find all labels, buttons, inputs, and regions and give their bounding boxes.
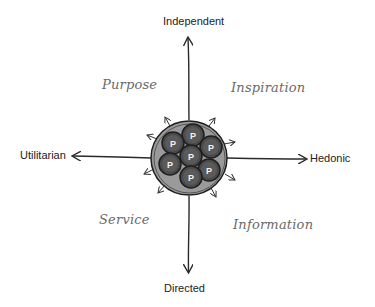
axis-label-bottom: Directed (164, 282, 205, 294)
small-arrow-icon (147, 135, 157, 139)
quadrant-label-bottom-left: Service (99, 212, 150, 227)
quadrant-label-top-left: Purpose (102, 77, 157, 92)
small-arrow-icon (224, 142, 235, 144)
quadrant-label-top-right: Inspiration (231, 80, 305, 95)
small-arrow-icon (225, 174, 235, 180)
p-node: P (180, 145, 202, 167)
axis-label-left: Utilitarian (20, 149, 66, 161)
arrow-up-icon (188, 38, 189, 120)
p-node: P (159, 153, 181, 175)
arrow-left-icon (73, 156, 151, 158)
center-cluster: P P P P P (151, 121, 227, 195)
axis-label-right: Hedonic (310, 152, 350, 164)
axis-label-top: Independent (163, 15, 224, 27)
svg-text:P: P (167, 160, 173, 170)
svg-text:P: P (190, 131, 196, 141)
svg-text:P: P (188, 173, 194, 183)
svg-text:P: P (188, 152, 194, 162)
arrow-right-icon (227, 158, 306, 159)
svg-text:P: P (206, 166, 212, 176)
positioning-map: P P P P P (0, 0, 375, 307)
p-node: P (180, 166, 202, 188)
small-arrow-icon (165, 117, 170, 126)
small-arrow-icon (211, 188, 216, 197)
p-node: P (200, 136, 222, 158)
small-arrow-icon (209, 118, 215, 126)
svg-text:P: P (208, 143, 214, 153)
svg-text:P: P (170, 139, 176, 149)
quadrant-label-bottom-right: Information (233, 217, 313, 232)
arrow-down-icon (188, 196, 189, 272)
